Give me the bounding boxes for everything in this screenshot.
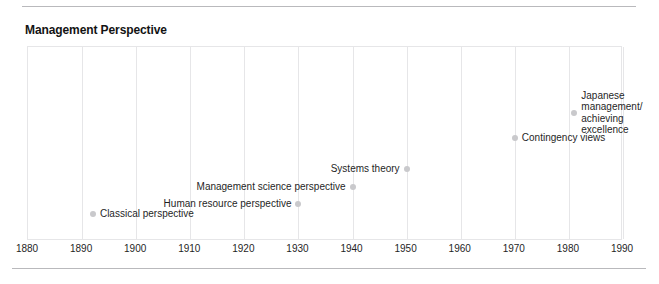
data-point-label: Systems theory (331, 163, 407, 175)
x-axis-tick-label: 1930 (286, 243, 308, 255)
x-axis: 1880189019001910192019301940195019601970… (27, 243, 622, 259)
x-axis-tick-label: 1980 (557, 243, 579, 255)
page-title: Management Perspective (25, 23, 167, 37)
x-axis-tick-label: 1890 (70, 243, 92, 255)
x-axis-tick-label: 1880 (16, 243, 38, 255)
gridline (298, 47, 299, 239)
x-axis-tick-label: 1940 (340, 243, 362, 255)
gridline (461, 47, 462, 239)
plot-area: Classical perspectiveHuman resource pers… (27, 46, 622, 240)
x-axis-tick-label: 1970 (503, 243, 525, 255)
gridline (407, 47, 408, 239)
x-axis-tick-label: 1900 (124, 243, 146, 255)
top-divider (22, 6, 636, 7)
x-axis-tick-label: 1960 (449, 243, 471, 255)
data-point-label: Human resource perspective (164, 198, 299, 210)
gridline (244, 47, 245, 239)
gridline (82, 47, 83, 239)
data-point-label: Management science perspective (197, 181, 353, 193)
x-axis-tick-label: 1990 (611, 243, 633, 255)
bottom-divider (12, 268, 646, 269)
gridline (353, 47, 354, 239)
chart-page: Management Perspective Classical perspec… (0, 0, 659, 284)
x-axis-tick-label: 1950 (395, 243, 417, 255)
x-axis-tick-label: 1910 (178, 243, 200, 255)
gridline (623, 47, 624, 239)
data-point-label: Japanese management/ achieving excellenc… (574, 90, 642, 136)
x-axis-tick-label: 1920 (232, 243, 254, 255)
